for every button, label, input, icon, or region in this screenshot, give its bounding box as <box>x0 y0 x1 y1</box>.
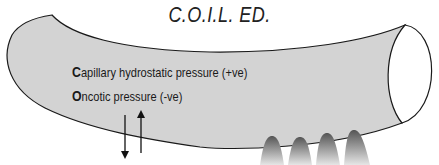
vessel-body <box>7 15 405 148</box>
capillary-initial: C <box>72 63 81 80</box>
oncotic-initial: O <box>72 87 82 104</box>
oncotic-text: ncotic pressure (-ve) <box>82 89 183 104</box>
capillary-text: apillary hydrostatic pressure (+ve) <box>81 65 247 80</box>
capillary-pressure-label: Capillary hydrostatic pressure (+ve) <box>72 63 247 80</box>
diagram-title: C.O.I.L. ED. <box>40 2 400 28</box>
oncotic-pressure-label: Oncotic pressure (-ve) <box>72 87 182 104</box>
